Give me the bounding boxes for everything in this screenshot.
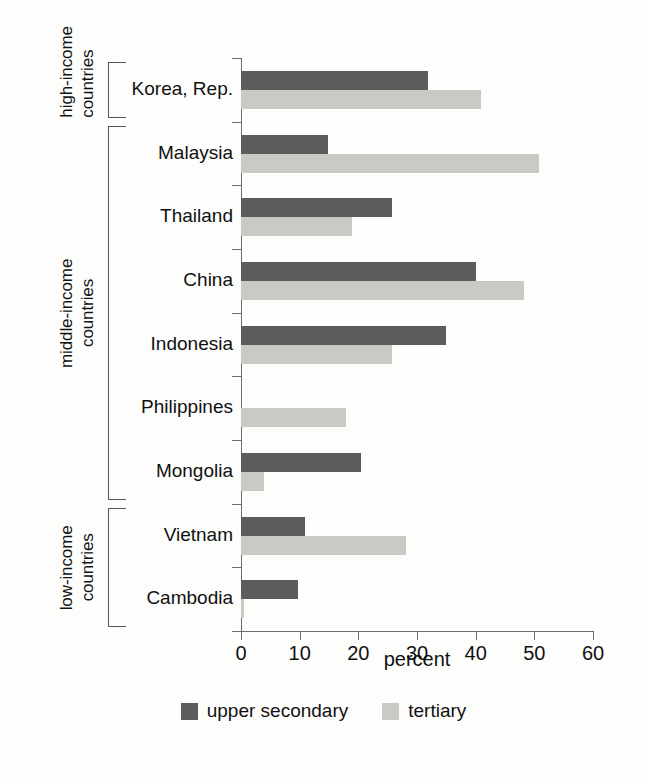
legend-swatch-icon	[382, 703, 399, 720]
plot-area	[241, 58, 593, 631]
bar	[241, 262, 476, 281]
bar	[241, 472, 264, 491]
chart-legend: upper secondarytertiary	[0, 700, 647, 722]
y-tick	[232, 567, 241, 568]
bar	[241, 599, 244, 618]
bar	[241, 517, 305, 536]
x-tick	[476, 631, 477, 640]
bar	[241, 71, 428, 90]
bar	[241, 580, 298, 599]
bar	[241, 345, 392, 364]
bar	[241, 217, 352, 236]
bar	[241, 281, 524, 300]
y-tick	[232, 504, 241, 505]
x-tick	[241, 631, 242, 640]
category-axis-labels: Korea, Rep.MalaysiaThailandChinaIndonesi…	[0, 0, 233, 781]
category-label: Thailand	[160, 205, 233, 227]
category-label: Cambodia	[146, 587, 233, 609]
x-axis-title: percent	[241, 648, 593, 671]
bar	[241, 536, 406, 555]
legend-item: upper secondary	[181, 700, 349, 722]
y-tick	[232, 58, 241, 59]
category-label: Vietnam	[164, 524, 233, 546]
bar	[241, 135, 328, 154]
y-tick	[232, 631, 241, 632]
bar	[241, 154, 539, 173]
y-tick	[232, 185, 241, 186]
category-label: Philippines	[141, 396, 233, 418]
y-tick	[232, 376, 241, 377]
bar	[241, 408, 346, 427]
category-label: Mongolia	[156, 460, 233, 482]
bar	[241, 453, 361, 472]
category-label: Indonesia	[151, 333, 233, 355]
x-tick	[534, 631, 535, 640]
legend-label: upper secondary	[207, 700, 349, 722]
bar	[241, 198, 392, 217]
category-label: China	[183, 269, 233, 291]
y-tick	[232, 313, 241, 314]
x-tick	[300, 631, 301, 640]
legend-item: tertiary	[382, 700, 466, 722]
bar	[241, 90, 481, 109]
y-tick	[232, 122, 241, 123]
legend-label: tertiary	[408, 700, 466, 722]
x-tick	[417, 631, 418, 640]
category-label: Malaysia	[158, 142, 233, 164]
bar	[241, 326, 446, 345]
category-label: Korea, Rep.	[132, 78, 233, 100]
chart-figure: high-income countriesmiddle-income count…	[0, 0, 647, 781]
x-tick	[358, 631, 359, 640]
y-tick	[232, 249, 241, 250]
legend-swatch-icon	[181, 703, 198, 720]
x-tick	[593, 631, 594, 640]
y-tick	[232, 440, 241, 441]
